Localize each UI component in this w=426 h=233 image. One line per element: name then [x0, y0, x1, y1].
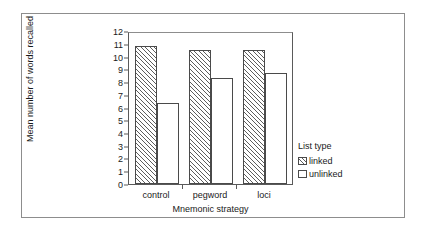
bar-loci-unlinked — [265, 73, 287, 184]
legend-label-unlinked: unlinked — [309, 169, 343, 179]
x-category-pegword: pegword — [193, 190, 228, 200]
legend-label-linked: linked — [309, 156, 333, 166]
y-tick-label: 7 — [118, 91, 123, 100]
y-tick-label: 11 — [114, 40, 123, 49]
y-tick-label: 1 — [118, 168, 123, 177]
legend-item-linked: linked — [298, 156, 343, 166]
bar-loci-linked — [243, 50, 265, 184]
y-axis-title: Mean number of words recalled — [25, 5, 35, 153]
x-axis-title: Mnemonic strategy — [128, 204, 293, 214]
y-tick-label: 12 — [113, 28, 123, 37]
y-tick-label: 10 — [113, 53, 123, 62]
legend-swatch-unlinked-icon — [298, 170, 307, 178]
y-tick-label: 6 — [118, 104, 123, 113]
legend-title: List type — [298, 141, 343, 152]
y-tick-label: 2 — [118, 155, 123, 164]
x-category-control: control — [142, 190, 169, 200]
y-tick-label: 0 — [118, 181, 123, 190]
y-tick-label: 8 — [118, 78, 123, 87]
y-tick-label: 5 — [118, 117, 123, 126]
y-axis: 12 11 10 9 8 7 6 5 4 3 2 1 0 — [112, 32, 128, 185]
legend: List type linked unlinked — [298, 141, 343, 182]
y-tick-label: 9 — [118, 66, 123, 75]
y-tick-label: 4 — [118, 130, 123, 139]
bar-control-unlinked — [157, 103, 179, 184]
bar-pegword-linked — [189, 50, 211, 184]
x-tick-mark — [182, 185, 183, 189]
x-tick-mark — [236, 185, 237, 189]
legend-swatch-linked-icon — [298, 157, 307, 165]
legend-item-unlinked: unlinked — [298, 169, 343, 179]
plot-area — [128, 32, 293, 185]
bar-pegword-unlinked — [211, 78, 233, 184]
y-tick-label: 3 — [118, 142, 123, 151]
x-category-loci: loci — [257, 190, 271, 200]
bar-control-linked — [135, 46, 157, 184]
bar-chart: 12 11 10 9 8 7 6 5 4 3 2 1 0 Mean number… — [0, 0, 426, 233]
